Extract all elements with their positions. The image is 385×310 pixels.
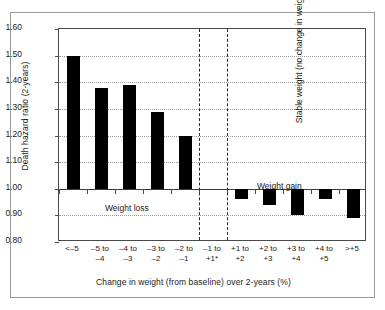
bar bbox=[263, 189, 276, 205]
y-tick-label: 1.30 bbox=[0, 102, 22, 112]
bar bbox=[291, 189, 304, 216]
bar bbox=[235, 189, 248, 200]
y-axis-title: Death hazard ratio (2-years) bbox=[20, 26, 34, 206]
y-tick-label: 1.20 bbox=[0, 129, 22, 139]
x-category-line: –2 to bbox=[170, 244, 198, 254]
stable-band-right-divider bbox=[227, 29, 228, 240]
x-category-line: +5 bbox=[310, 254, 338, 264]
x-category-label: –5 to–4 bbox=[86, 244, 114, 264]
figure-panel: Death hazard ratio (2-years) Weight loss… bbox=[10, 12, 375, 298]
x-category-line: –3 to bbox=[142, 244, 170, 254]
x-category-line: +3 bbox=[254, 254, 282, 264]
stable-band-left-divider bbox=[199, 29, 200, 240]
x-category-label: +1 to+2 bbox=[226, 244, 254, 264]
x-category-label: –3 to–2 bbox=[142, 244, 170, 264]
annotation-weight-loss: Weight loss bbox=[105, 203, 149, 213]
x-category-line: <–5 bbox=[58, 244, 86, 254]
y-tick-label: 0.80 bbox=[0, 235, 22, 245]
x-category-line: –4 bbox=[86, 254, 114, 264]
x-category-label: –2 to–1 bbox=[170, 244, 198, 264]
x-category-line: +4 bbox=[282, 254, 310, 264]
annotation-stable-weight: Stable weight (no change in weight) bbox=[294, 0, 306, 149]
x-category-line: +2 to bbox=[254, 244, 282, 254]
x-category-line: –4 to bbox=[114, 244, 142, 254]
bar bbox=[151, 112, 164, 189]
x-category-label: +4 to+5 bbox=[310, 244, 338, 264]
x-axis-title: Change in weight (from baseline) over 2-… bbox=[11, 277, 376, 287]
bar bbox=[179, 136, 192, 189]
bar bbox=[347, 189, 360, 218]
x-category-line: –1 to bbox=[198, 244, 226, 254]
y-tick-label: 1.60 bbox=[0, 22, 22, 32]
bar bbox=[95, 88, 108, 189]
x-category-label: –1 to+1* bbox=[198, 244, 226, 264]
x-category-label: >+5 bbox=[338, 244, 366, 254]
x-category-line: –1 bbox=[170, 254, 198, 264]
annotation-weight-gain: Weight gain bbox=[257, 181, 302, 191]
x-category-line: >+5 bbox=[338, 244, 366, 254]
x-category-line: +1* bbox=[198, 254, 226, 264]
y-tick-label: 1.50 bbox=[0, 49, 22, 59]
x-category-label: +2 to+3 bbox=[254, 244, 282, 264]
x-category-label: –4 to–3 bbox=[114, 244, 142, 264]
x-category-label: +3 to+4 bbox=[282, 244, 310, 264]
x-category-line: +3 to bbox=[282, 244, 310, 254]
x-category-line: –5 to bbox=[86, 244, 114, 254]
x-category-label: <–5 bbox=[58, 244, 86, 254]
y-tick-label: 1.00 bbox=[0, 182, 22, 192]
x-category-line: –2 bbox=[142, 254, 170, 264]
x-category-line: +2 bbox=[226, 254, 254, 264]
y-tick-label: 1.10 bbox=[0, 155, 22, 165]
bar bbox=[123, 85, 136, 189]
plot-area: Weight loss Weight gain Stable weight (n… bbox=[58, 28, 366, 241]
x-category-line: +4 to bbox=[310, 244, 338, 254]
bar bbox=[319, 189, 332, 200]
bar bbox=[67, 56, 80, 189]
x-category-line: +1 to bbox=[226, 244, 254, 254]
x-category-line: –3 bbox=[114, 254, 142, 264]
x-axis-category-labels: <–5–5 to–4–4 to–3–3 to–2–2 to–1–1 to+1*+… bbox=[58, 244, 366, 274]
y-tick-label: 1.40 bbox=[0, 75, 22, 85]
y-tick-label: 0.90 bbox=[0, 208, 22, 218]
y-tick-mark bbox=[55, 242, 59, 243]
